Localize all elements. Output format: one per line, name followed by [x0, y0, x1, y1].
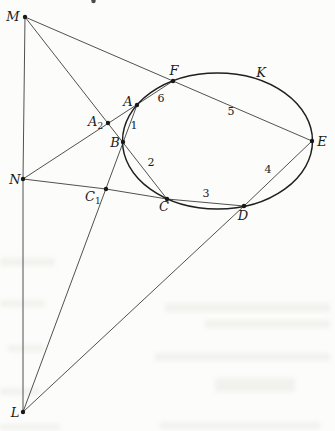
conic-K-label: K: [255, 65, 267, 80]
side-4-number: 4: [265, 163, 272, 176]
cropped-artifact: [91, 0, 95, 3]
line-side-2-MBC: [25, 17, 167, 199]
point-D-label: D: [237, 208, 249, 223]
point-A2-subscript: 2: [97, 121, 103, 131]
point-F-dot: [171, 79, 175, 83]
point-L-label: L: [10, 405, 20, 420]
point-C1-dot: [104, 187, 108, 191]
side-6-number: 6: [158, 92, 165, 105]
point-L-dot: [21, 410, 25, 414]
conic-K-ellipse: [123, 73, 313, 209]
line-side-3-NCD: [23, 179, 244, 206]
point-A2-base: A: [87, 114, 97, 129]
point-N-label: N: [8, 172, 21, 187]
line-side-4-LDE: [23, 141, 312, 412]
point-E-label: E: [316, 134, 327, 149]
point-C1-base: C: [85, 189, 95, 204]
point-E-dot: [310, 139, 314, 143]
side-1-number: 1: [131, 119, 138, 132]
side-5-number: 5: [228, 105, 235, 118]
point-F-label: F: [168, 63, 179, 78]
side-2-number: 2: [148, 156, 155, 169]
point-M-dot: [23, 15, 27, 19]
point-C-label: C: [159, 199, 169, 214]
point-A2-dot: [106, 121, 110, 125]
point-N-dot: [21, 177, 25, 181]
paper-bleedthrough: [0, 258, 330, 430]
point-C1-label: C1: [85, 189, 101, 206]
point-A-label: A: [122, 94, 132, 109]
point-A-dot: [135, 103, 139, 107]
point-C1-subscript: 1: [95, 196, 101, 206]
line-side-5-MFE: [25, 17, 312, 141]
point-M-label: M: [5, 9, 20, 24]
pascal-line-MNL: [23, 17, 25, 412]
side-3-number: 3: [203, 187, 210, 200]
pascal-theorem-diagram: M N L A B C D E F K A2 C1 1 2 3 4 5 6: [0, 0, 335, 431]
point-B-dot: [121, 140, 125, 144]
point-B-label: B: [109, 135, 120, 150]
scanned-figure-page: M N L A B C D E F K A2 C1 1 2 3 4 5 6: [0, 0, 335, 431]
point-A2-label: A2: [87, 114, 103, 131]
